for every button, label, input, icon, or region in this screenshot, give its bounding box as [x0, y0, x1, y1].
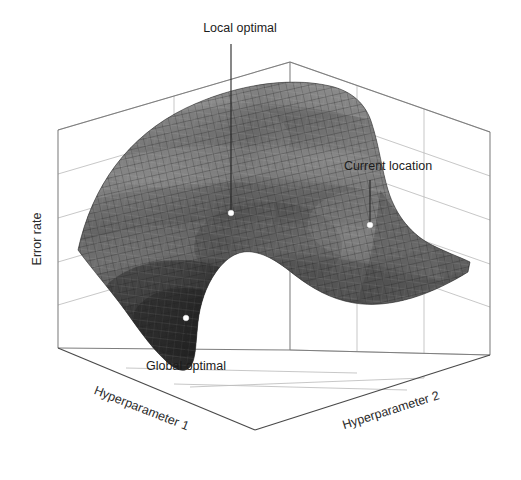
global-optimal-marker — [183, 315, 189, 321]
global-optimal-label: Global optimal — [146, 359, 226, 373]
local-optimal-marker — [228, 210, 234, 216]
z-axis-label: Error rate — [30, 213, 44, 266]
local-optimal-label: Local optimal — [203, 21, 277, 35]
current-location-label: Current location — [344, 159, 432, 173]
surface-plot: Local optimal Current location Global op… — [0, 0, 521, 480]
current-location-marker — [367, 222, 373, 228]
figure-container: Local optimal Current location Global op… — [0, 0, 521, 480]
